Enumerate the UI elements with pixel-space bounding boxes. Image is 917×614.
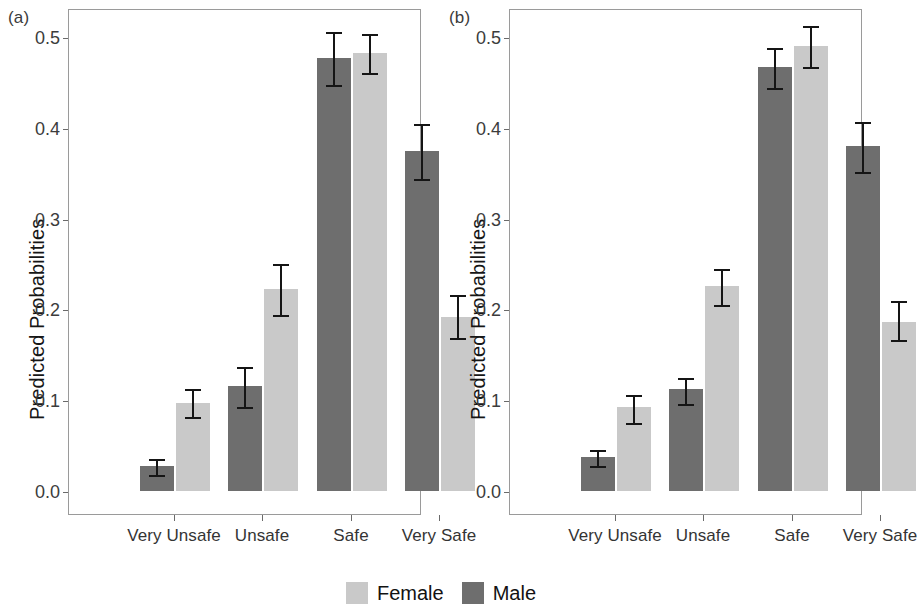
- y-tick-label: 0.0: [453, 482, 501, 503]
- y-tick-mark: [504, 220, 509, 221]
- error-bar-male-unsafe: [669, 378, 703, 406]
- plot-frame-b: [509, 9, 862, 515]
- y-tick-label: 0.5: [453, 28, 501, 49]
- y-tick-label: 0.1: [453, 391, 501, 412]
- error-bar-male-very-unsafe: [581, 450, 615, 467]
- x-tick-mark: [262, 515, 263, 521]
- error-bar-male-unsafe: [228, 367, 262, 409]
- x-tick-mark: [880, 515, 881, 521]
- panel-b: (b) Predicted Probabilities 0.00.10.20.3…: [441, 0, 882, 560]
- y-tick-mark: [63, 492, 68, 493]
- y-tick-mark: [504, 492, 509, 493]
- plot-area-a: [69, 10, 420, 514]
- error-bar-female-very-safe: [882, 301, 916, 343]
- error-bar-female-unsafe: [705, 269, 739, 307]
- x-tick-label-very-unsafe: Very Unsafe: [127, 526, 221, 546]
- x-tick-mark: [174, 515, 175, 521]
- x-tick-label-very-unsafe: Very Unsafe: [568, 526, 662, 546]
- x-tick-mark: [703, 515, 704, 521]
- legend: Female Male: [0, 572, 882, 614]
- y-tick-mark: [63, 38, 68, 39]
- y-tick-mark: [63, 220, 68, 221]
- x-tick-label-safe: Safe: [333, 526, 368, 546]
- y-tick-mark: [504, 310, 509, 311]
- x-tick-mark: [792, 515, 793, 521]
- legend-item-female[interactable]: Female: [346, 582, 444, 605]
- legend-swatch-male-icon: [462, 582, 484, 604]
- x-tick-label-safe: Safe: [774, 526, 809, 546]
- bar-female-unsafe: [264, 289, 298, 491]
- y-tick-label: 0.5: [12, 28, 60, 49]
- x-tick-label-unsafe: Unsafe: [235, 526, 289, 546]
- x-tick-mark: [439, 515, 440, 521]
- y-tick-label: 0.0: [12, 482, 60, 503]
- x-tick-label-unsafe: Unsafe: [676, 526, 730, 546]
- y-tick-label: 0.3: [453, 209, 501, 230]
- x-tick-mark: [615, 515, 616, 521]
- panel-b-label: (b): [449, 8, 470, 28]
- bar-male-very-safe: [846, 146, 880, 491]
- y-tick-label: 0.4: [12, 118, 60, 139]
- plot-frame-a: [68, 9, 421, 515]
- bar-female-safe: [353, 53, 387, 491]
- y-tick-label: 0.2: [453, 300, 501, 321]
- plot-area-b: [510, 10, 861, 514]
- y-tick-mark: [63, 401, 68, 402]
- error-bar-male-very-safe: [405, 124, 439, 180]
- error-bar-female-safe: [794, 26, 828, 69]
- y-tick-mark: [63, 129, 68, 130]
- error-bar-male-very-unsafe: [140, 459, 174, 476]
- y-tick-mark: [504, 401, 509, 402]
- legend-label-female: Female: [377, 582, 444, 605]
- bar-female-very-safe: [882, 322, 916, 491]
- error-bar-female-very-unsafe: [176, 389, 210, 420]
- panel-a: (a) Predicted Probabilities 0.00.10.20.3…: [0, 0, 441, 560]
- bar-female-safe: [794, 46, 828, 491]
- error-bar-female-safe: [353, 34, 387, 76]
- y-tick-label: 0.4: [453, 118, 501, 139]
- legend-swatch-female-icon: [346, 582, 368, 604]
- error-bar-male-very-safe: [846, 122, 880, 175]
- legend-item-male[interactable]: Male: [462, 582, 536, 605]
- x-tick-mark: [351, 515, 352, 521]
- error-bar-male-safe: [317, 32, 351, 87]
- error-bar-female-unsafe: [264, 264, 298, 317]
- bar-male-safe: [758, 67, 792, 491]
- bar-male-very-safe: [405, 151, 439, 492]
- y-tick-label: 0.1: [12, 391, 60, 412]
- bar-male-safe: [317, 58, 351, 491]
- y-tick-mark: [504, 38, 509, 39]
- legend-label-male: Male: [493, 582, 536, 605]
- y-tick-mark: [504, 129, 509, 130]
- y-tick-mark: [63, 310, 68, 311]
- error-bar-male-safe: [758, 48, 792, 90]
- error-bar-female-very-unsafe: [617, 395, 651, 425]
- y-tick-label: 0.3: [12, 209, 60, 230]
- panel-a-label: (a): [8, 8, 29, 28]
- x-tick-label-very-safe: Very Safe: [843, 526, 917, 546]
- y-tick-label: 0.2: [12, 300, 60, 321]
- bar-female-unsafe: [705, 286, 739, 491]
